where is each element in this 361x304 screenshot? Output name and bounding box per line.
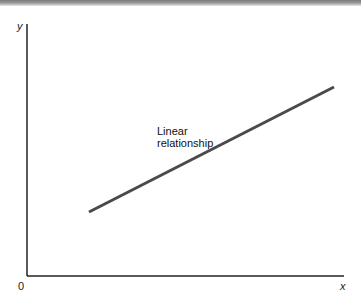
origin-label: 0 xyxy=(18,280,24,292)
y-axis-label: y xyxy=(17,20,23,32)
annotation-line-2: relationship xyxy=(157,137,213,149)
line-annotation: Linear relationship xyxy=(157,125,213,149)
line-plot xyxy=(0,0,361,304)
linear-relationship-line xyxy=(89,87,334,212)
annotation-line-1: Linear xyxy=(157,125,213,137)
x-axis-label: x xyxy=(340,280,346,292)
